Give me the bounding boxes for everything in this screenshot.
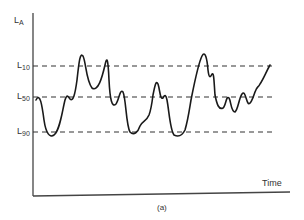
reference-label-l90: L90 bbox=[17, 126, 30, 137]
y-axis-label: LA bbox=[14, 15, 24, 26]
reference-lines: L10L50L90 bbox=[17, 60, 272, 137]
figure-caption: (a) bbox=[157, 203, 167, 212]
reference-label-l10: L10 bbox=[17, 60, 30, 71]
x-axis-label: Time bbox=[262, 178, 282, 188]
reference-label-l50: L50 bbox=[17, 91, 30, 102]
noise-level-chart: LA L10L50L90 Time (a) bbox=[0, 0, 304, 220]
x-axis bbox=[33, 192, 290, 196]
